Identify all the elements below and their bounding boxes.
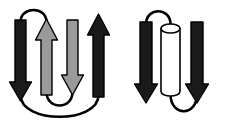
figure-root: Protein secondary structure topology dia… bbox=[0, 0, 234, 132]
helix-cylinder-top-cap bbox=[161, 24, 180, 33]
panel-right-beta-alpha-beta-motif bbox=[135, 11, 209, 111]
topology-diagram bbox=[0, 0, 234, 132]
alpha-helix-cylinder bbox=[161, 24, 180, 96]
helix-cylinder-body bbox=[161, 29, 180, 97]
